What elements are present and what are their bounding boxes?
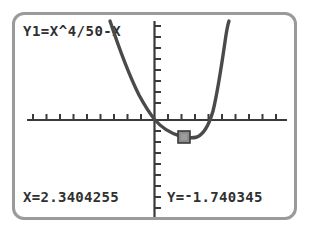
trace-status-bar: X=2.3404255 Y=-1.740345 xyxy=(15,189,294,211)
trace-y-number: 1.740345 xyxy=(193,189,263,205)
trace-x-value: X=2.3404255 xyxy=(23,189,119,205)
trace-y-prefix: Y= xyxy=(167,189,184,205)
trace-cursor-marker xyxy=(178,131,190,143)
trace-y-negative-sign: - xyxy=(184,189,192,202)
calculator-screen: Y1=X^4/50-X xyxy=(12,12,297,220)
screen-inner: Y1=X^4/50-X xyxy=(15,15,294,217)
trace-y-value: Y=-1.740345 xyxy=(167,189,263,205)
graph-plot xyxy=(15,15,294,217)
